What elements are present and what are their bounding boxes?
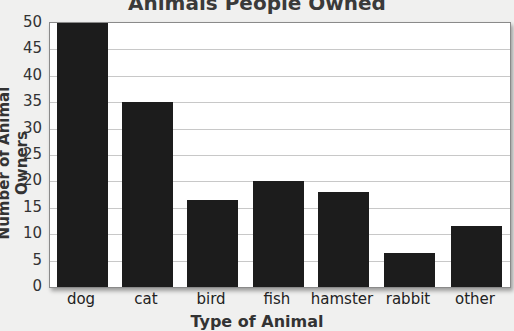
plot-area xyxy=(49,22,511,288)
gridline xyxy=(50,76,510,77)
gridline xyxy=(50,102,510,103)
x-tick-label: hamster xyxy=(309,290,375,308)
bar-hamster xyxy=(318,192,369,287)
gridline xyxy=(50,155,510,156)
bar-fish xyxy=(253,181,304,287)
y-tick-label: 40 xyxy=(0,66,42,84)
x-tick-label: dog xyxy=(48,290,114,308)
y-tick-label: 10 xyxy=(0,224,42,242)
y-tick-label: 25 xyxy=(0,145,42,163)
chart-title: Animals People Owned xyxy=(0,0,514,15)
x-tick-label: other xyxy=(442,290,508,308)
y-tick-label: 30 xyxy=(0,119,42,137)
x-tick-label: bird xyxy=(178,290,244,308)
gridline xyxy=(50,49,510,50)
y-tick-label: 15 xyxy=(0,198,42,216)
bar-cat xyxy=(122,102,173,287)
y-tick-label: 0 xyxy=(0,277,42,295)
bar-bird xyxy=(187,200,238,287)
gridline xyxy=(50,129,510,130)
y-tick-label: 20 xyxy=(0,171,42,189)
x-tick-label: cat xyxy=(113,290,179,308)
x-axis-label: Type of Animal xyxy=(0,312,514,331)
bar-dog xyxy=(57,23,108,287)
y-tick-label: 45 xyxy=(0,39,42,57)
bar-other xyxy=(451,226,502,287)
y-tick-label: 5 xyxy=(0,251,42,269)
x-tick-label: rabbit xyxy=(375,290,441,308)
y-tick-label: 35 xyxy=(0,92,42,110)
y-tick-label: 50 xyxy=(0,13,42,31)
bar-rabbit xyxy=(384,253,435,287)
x-tick-label: fish xyxy=(244,290,310,308)
